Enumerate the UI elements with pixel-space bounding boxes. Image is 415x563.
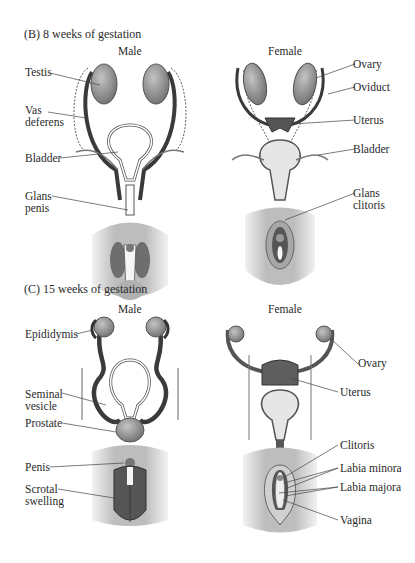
c-female-internal bbox=[228, 326, 333, 455]
label-penis: Penis bbox=[25, 461, 50, 473]
b-male-internal bbox=[74, 64, 186, 215]
panel-b-male-header: Male bbox=[118, 45, 142, 57]
label-uterus-b: Uterus bbox=[353, 114, 384, 126]
label-vagina: Vagina bbox=[340, 514, 372, 526]
label-ovary-b: Ovary bbox=[353, 58, 382, 70]
c-male-external bbox=[92, 445, 168, 526]
c-male-internal bbox=[82, 317, 178, 442]
label-vas-deferens: Vas deferens bbox=[25, 104, 70, 128]
label-prostate: Prostate bbox=[25, 417, 62, 429]
label-labia-majora: Labia majora bbox=[340, 481, 401, 493]
panel-c-title: (C) 15 weeks of gestation bbox=[24, 283, 147, 295]
label-glans-clitoris: Glans clitoris bbox=[353, 187, 398, 211]
label-scrotal-swelling: Scrotal swelling bbox=[25, 483, 70, 507]
label-uterus-c: Uterus bbox=[340, 386, 371, 398]
label-oviduct: Oviduct bbox=[353, 81, 390, 93]
label-bladder-male: Bladder bbox=[25, 152, 61, 164]
panel-b-female-header: Female bbox=[268, 45, 302, 57]
label-ovary-c: Ovary bbox=[358, 357, 387, 369]
label-epididymis: Epididymis bbox=[25, 328, 78, 340]
label-labia-minora: Labia minora bbox=[340, 462, 402, 474]
label-testis: Testis bbox=[25, 66, 52, 78]
label-glans-penis: Glans penis bbox=[25, 190, 65, 214]
panel-c-male-header: Male bbox=[118, 303, 142, 315]
b-female-external bbox=[245, 208, 315, 286]
label-bladder-female: Bladder bbox=[353, 143, 389, 155]
b-female-internal bbox=[232, 61, 328, 200]
label-clitoris: Clitoris bbox=[340, 439, 375, 451]
panel-c-female-header: Female bbox=[268, 303, 302, 315]
panel-b-title: (B) 8 weeks of gestation bbox=[24, 28, 141, 40]
label-seminal-vesicle: Seminal vesicle bbox=[25, 388, 70, 412]
